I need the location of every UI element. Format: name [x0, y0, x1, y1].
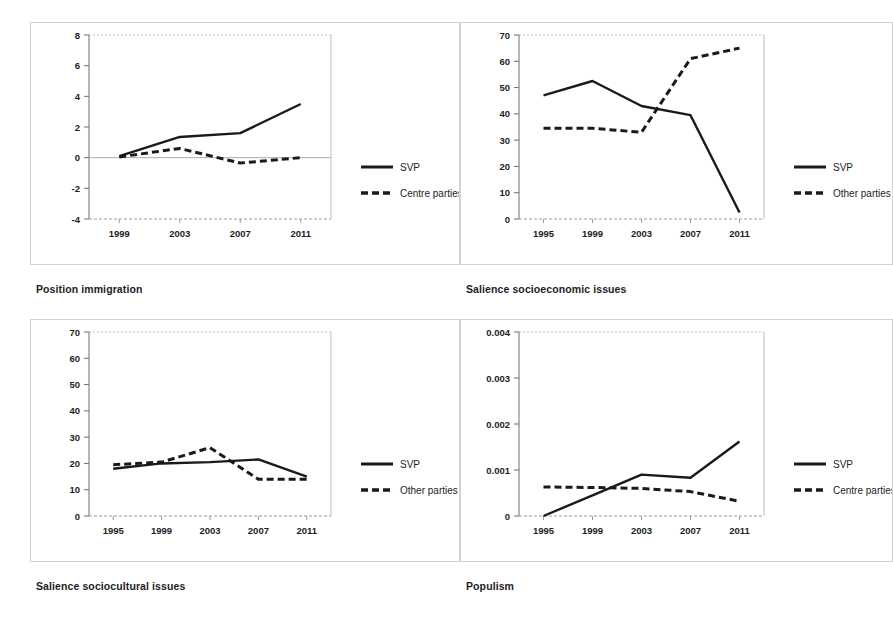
x-axis-tick-label: 2003 [199, 525, 220, 536]
y-axis-tick-label: 0.002 [486, 419, 510, 430]
series-line-solid [113, 459, 307, 476]
y-axis-tick-label: 10 [499, 187, 510, 198]
x-axis-tick-label: 2011 [290, 228, 311, 239]
series-line-dashed [119, 148, 301, 163]
y-axis-tick-label: 6 [75, 60, 80, 71]
y-axis-tick-label: -2 [72, 183, 80, 194]
x-axis-tick-label: 1999 [151, 525, 172, 536]
y-axis-tick-label: 2 [75, 122, 80, 133]
chart-frame-3: 00.0010.0020.0030.0041995199920032007201… [460, 319, 893, 562]
chart-caption: Salience sociocultural issues [36, 580, 460, 592]
legend-label-solid: SVP [400, 459, 420, 470]
y-axis-tick-label: 10 [69, 484, 80, 495]
x-axis-tick-label: 1999 [109, 228, 130, 239]
y-axis-tick-label: 4 [75, 91, 81, 102]
legend-label-dashed: Other parties [833, 188, 891, 199]
x-axis-tick-label: 2011 [729, 228, 750, 239]
series-line-solid [544, 441, 740, 516]
y-axis-tick-label: 0 [75, 152, 80, 163]
x-axis-tick-label: 2007 [680, 228, 701, 239]
y-axis-tick-label: -4 [72, 214, 81, 225]
y-axis-tick-label: 40 [499, 108, 510, 119]
x-axis-tick-label: 1995 [533, 228, 555, 239]
x-axis-tick-label: 2003 [631, 525, 652, 536]
line-chart-salience-sociocultural: 01020304050607019951999200320072011SVPOt… [31, 320, 459, 561]
y-axis-tick-label: 0.004 [486, 327, 510, 338]
legend-label-solid: SVP [400, 162, 420, 173]
chart-frame-1: 01020304050607019951999200320072011SVPOt… [460, 22, 893, 265]
y-axis-tick-label: 20 [499, 161, 510, 172]
x-axis-tick-label: 2007 [230, 228, 251, 239]
legend-label-solid: SVP [833, 162, 853, 173]
panel-position-immigration: -4-2024681999200320072011SVPCentre parti… [30, 22, 460, 319]
x-axis-tick-label: 1999 [582, 525, 603, 536]
legend-label-solid: SVP [833, 459, 853, 470]
y-axis-tick-label: 0 [75, 511, 80, 522]
panel-salience-sociocultural: 01020304050607019951999200320072011SVPOt… [30, 319, 460, 616]
y-axis-tick-label: 30 [499, 135, 510, 146]
panel-populism: 00.0010.0020.0030.0041995199920032007201… [460, 319, 893, 616]
chart-caption: Position immigration [36, 283, 460, 295]
line-chart-populism: 00.0010.0020.0030.0041995199920032007201… [461, 320, 892, 561]
x-axis-tick-label: 2003 [169, 228, 190, 239]
chart-caption: Populism [466, 580, 893, 592]
series-line-dashed [113, 448, 307, 480]
y-axis-tick-label: 0 [505, 214, 510, 225]
y-axis-tick-label: 70 [69, 327, 80, 338]
x-axis-tick-label: 1999 [582, 228, 603, 239]
series-line-dashed [544, 487, 740, 501]
series-line-solid [544, 81, 740, 212]
y-axis-tick-label: 50 [499, 82, 510, 93]
x-axis-tick-label: 2007 [248, 525, 269, 536]
line-chart-position-immigration: -4-2024681999200320072011SVPCentre parti… [31, 23, 459, 264]
y-axis-tick-label: 0.001 [486, 465, 510, 476]
y-axis-tick-label: 60 [69, 353, 80, 364]
y-axis-tick-label: 60 [499, 56, 510, 67]
y-axis-tick-label: 40 [69, 405, 80, 416]
x-axis-tick-label: 2011 [729, 525, 750, 536]
y-axis-tick-label: 20 [69, 458, 80, 469]
chart-frame-2: 01020304050607019951999200320072011SVPOt… [30, 319, 460, 562]
figure-grid: -4-2024681999200320072011SVPCentre parti… [0, 0, 893, 622]
y-axis-tick-label: 30 [69, 432, 80, 443]
x-axis-tick-label: 2011 [296, 525, 317, 536]
x-axis-tick-label: 2007 [680, 525, 701, 536]
series-line-solid [119, 104, 301, 156]
y-axis-tick-label: 70 [499, 30, 510, 41]
chart-frame-0: -4-2024681999200320072011SVPCentre parti… [30, 22, 460, 265]
y-axis-tick-label: 0 [505, 511, 510, 522]
x-axis-tick-label: 1995 [533, 525, 555, 536]
panel-salience-socioeconomic: 01020304050607019951999200320072011SVPOt… [460, 22, 893, 319]
y-axis-tick-label: 0.003 [486, 373, 510, 384]
line-chart-salience-socioeconomic: 01020304050607019951999200320072011SVPOt… [461, 23, 892, 264]
legend-label-dashed: Centre parties [833, 485, 892, 496]
legend-label-dashed: Centre parties [400, 188, 459, 199]
x-axis-tick-label: 1995 [103, 525, 125, 536]
x-axis-tick-label: 2003 [631, 228, 652, 239]
y-axis-tick-label: 8 [75, 30, 80, 41]
chart-caption: Salience socioeconomic issues [466, 283, 893, 295]
series-line-dashed [544, 48, 740, 132]
legend-label-dashed: Other parties [400, 485, 458, 496]
y-axis-tick-label: 50 [69, 379, 80, 390]
